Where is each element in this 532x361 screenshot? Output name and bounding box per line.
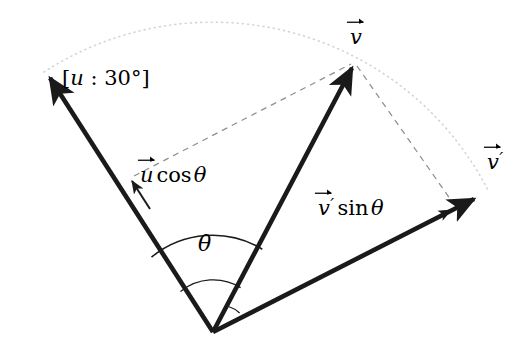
label-vsin-operator: sin bbox=[337, 196, 368, 220]
label-v-prime: v′ bbox=[487, 150, 503, 173]
label-u-angle-close: ] bbox=[141, 66, 149, 90]
vector-accent-v-sin: v bbox=[318, 198, 330, 219]
label-u-angle-value: 30° bbox=[104, 66, 141, 90]
label-ucos-vector: u bbox=[140, 163, 154, 187]
sub-angle-arc-right bbox=[229, 307, 240, 313]
dashed-line-ucos-to-v bbox=[134, 64, 351, 176]
label-u-angle-colon: : bbox=[84, 66, 104, 90]
dotted-circular-arc bbox=[44, 22, 489, 192]
diagram-canvas bbox=[0, 0, 532, 361]
label-theta: θ bbox=[198, 233, 211, 255]
label-ucos-angle: θ bbox=[194, 163, 207, 187]
vector-accent-u: u bbox=[140, 165, 154, 186]
label-v: v bbox=[350, 27, 362, 48]
label-theta-text: θ bbox=[198, 231, 211, 256]
label-u-angle-var: u bbox=[70, 66, 84, 90]
vector-accent-v-prime: v bbox=[487, 152, 499, 173]
label-vsin-prime: ′ bbox=[330, 194, 334, 214]
label-vsin-angle: θ bbox=[371, 196, 384, 220]
label-u-angle: [u : 30°] bbox=[62, 68, 150, 89]
vector-v-prime-sin-theta-arrowhead bbox=[430, 210, 451, 221]
label-vsin-vector: v bbox=[318, 196, 330, 220]
label-vprime-prime: ′ bbox=[499, 148, 503, 168]
label-u-angle-open: [ bbox=[62, 66, 70, 90]
label-v-prime-sin-theta: v′sinθ bbox=[318, 196, 384, 219]
dashed-line-v-to-vsin bbox=[357, 66, 453, 203]
label-v-vector: v bbox=[350, 25, 362, 49]
label-u-cos-theta: ucosθ bbox=[140, 165, 206, 186]
label-ucos-operator: cos bbox=[156, 163, 191, 187]
vector-u bbox=[50, 78, 213, 332]
vector-accent-v: v bbox=[350, 27, 362, 48]
sub-angle-arc-left bbox=[181, 280, 241, 292]
vector-projection-figure: [u : 30°] ucosθ θ v v′sinθ v′ bbox=[0, 0, 532, 361]
label-vprime-vector: v bbox=[487, 150, 499, 174]
